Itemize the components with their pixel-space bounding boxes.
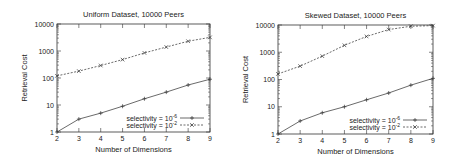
chart-title: Skewed Dataset, 10000 Peers: [305, 11, 407, 20]
y-tick-label: 10: [46, 102, 54, 109]
y-tick-label: 10000: [256, 22, 276, 29]
x-tick-label: 6: [142, 135, 146, 142]
x-tick-label: 4: [99, 135, 103, 142]
series-line: [278, 26, 433, 74]
x-axis-label: Number of Dimensions: [95, 145, 172, 154]
x-tick-label: 8: [186, 135, 190, 142]
x-axis-label: Number of Dimensions: [317, 147, 394, 156]
y-tick-label: 100: [42, 75, 54, 82]
y-tick-label: 10: [267, 103, 275, 110]
x-tick-label: 9: [431, 137, 435, 144]
y-tick-label: 1000: [38, 48, 54, 55]
y-tick-label: 1: [50, 129, 54, 136]
x-tick-label: 6: [365, 137, 369, 144]
chart-uniform: Uniform Dataset, 10000 Peers110100100010…: [20, 10, 212, 154]
y-tick-label: 1: [271, 131, 275, 138]
x-tick-label: 3: [298, 137, 302, 144]
x-tick-label: 2: [276, 137, 280, 144]
y-tick-label: 10000: [35, 21, 55, 28]
legend: selectivity = 10-6selectivity = 10-2: [349, 115, 427, 132]
x-tick-label: 2: [55, 135, 59, 142]
x-tick-label: 7: [387, 137, 391, 144]
x-tick-label: 9: [208, 135, 212, 142]
x-tick-label: 5: [342, 137, 346, 144]
x-tick-label: 4: [320, 137, 324, 144]
x-tick-label: 8: [409, 137, 413, 144]
x-tick-label: 3: [77, 135, 81, 142]
y-tick-label: 1000: [259, 49, 275, 56]
charts-container: Uniform Dataset, 10000 Peers110100100010…: [0, 0, 453, 166]
chart-skewed: Skewed Dataset, 10000 Peers1101001000100…: [241, 11, 435, 156]
legend: selectivity = 10-6selectivity = 10-2: [126, 113, 204, 130]
legend-label: selectivity = 10-2: [349, 122, 400, 132]
y-axis-label: Retrieval Cost: [20, 54, 29, 102]
y-axis-label: Retrieval Cost: [241, 55, 250, 103]
chart-title: Uniform Dataset, 10000 Peers: [83, 10, 184, 19]
x-tick-label: 7: [164, 135, 168, 142]
x-tick-label: 5: [121, 135, 125, 142]
legend-label: selectivity = 10-2: [126, 120, 177, 130]
y-tick-label: 100: [263, 76, 275, 83]
